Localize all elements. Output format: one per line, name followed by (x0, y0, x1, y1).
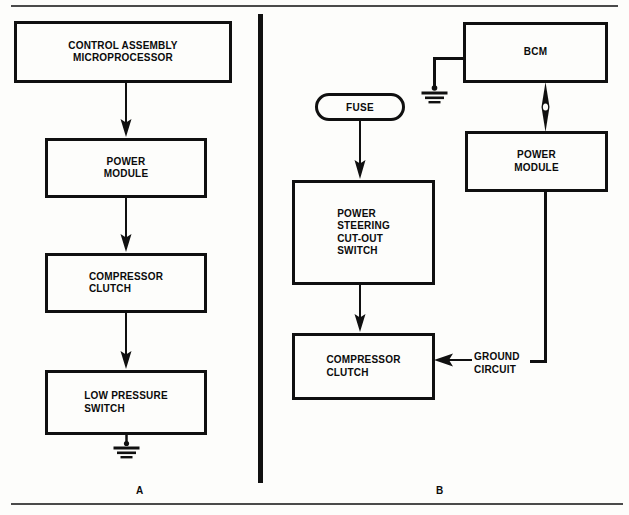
box-power-module-b: POWER MODULE (465, 131, 608, 192)
box-control-assembly-microprocessor: CONTROL ASSEMBLY MICROPROCESSOR (14, 21, 232, 83)
ground-circuit-wire-vertical (544, 192, 547, 362)
bottom-rule (11, 503, 623, 505)
arrow-control-to-power-module (119, 83, 133, 138)
box-compressor-clutch-b: COMPRESSOR CLUTCH (292, 333, 435, 400)
box-label: LOW PRESSURE SWITCH (84, 390, 168, 415)
arrow-power-module-to-compressor-clutch-a (119, 198, 133, 253)
arrow-power-steering-switch-to-compressor-clutch (353, 285, 367, 333)
box-low-pressure-switch: LOW PRESSURE SWITCH (45, 370, 207, 435)
box-power-module-a: POWER MODULE (45, 138, 207, 198)
box-label: FUSE (346, 102, 374, 113)
double-arrow-icon-bcm-power-module (536, 82, 555, 132)
panel-divider (258, 14, 263, 483)
box-label: CONTROL ASSEMBLY MICROPROCESSOR (68, 40, 178, 65)
box-label: POWER MODULE (514, 149, 559, 174)
panel-letter-b: B (436, 485, 443, 496)
ground-icon-panel-a (110, 434, 143, 460)
top-rule (11, 5, 618, 7)
panel-letter-a: A (136, 485, 143, 496)
box-label: BCM (524, 46, 547, 59)
ground-circuit-wire-horizontal (530, 360, 547, 363)
box-label: POWER STEERING CUT-OUT SWITCH (337, 208, 390, 258)
arrow-fuse-to-power-steering-switch (353, 121, 367, 180)
box-compressor-clutch-a: COMPRESSOR CLUTCH (45, 253, 207, 313)
ground-icon-panel-b (418, 84, 451, 110)
box-fuse: FUSE (315, 93, 405, 121)
box-label: COMPRESSOR CLUTCH (326, 354, 400, 379)
box-bcm: BCM (463, 22, 608, 83)
diagram-canvas: CONTROL ASSEMBLY MICROPROCESSOR POWER MO… (0, 0, 629, 515)
box-power-steering-cut-out-switch: POWER STEERING CUT-OUT SWITCH (292, 180, 435, 285)
box-label: POWER MODULE (104, 156, 149, 181)
box-label: COMPRESSOR CLUTCH (89, 271, 163, 296)
arrow-ground-circuit-to-compressor-clutch (434, 352, 472, 368)
arrow-compressor-clutch-to-low-pressure-switch (119, 313, 133, 370)
label-ground-circuit: GROUND CIRCUIT (474, 351, 520, 376)
bcm-ground-wire-horizontal (434, 57, 465, 60)
